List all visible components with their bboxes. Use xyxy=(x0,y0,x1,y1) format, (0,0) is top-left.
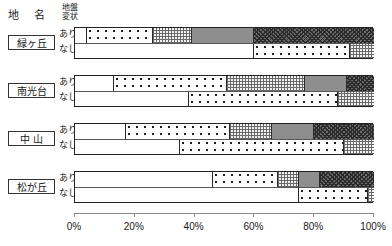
x-axis-line xyxy=(74,213,373,214)
x-axis-tick xyxy=(194,213,195,217)
stacked-bar xyxy=(75,76,374,91)
place-name-box: 南光台 xyxy=(8,83,55,98)
place-name-box: 中 山 xyxy=(8,131,55,146)
bar-segment-gray xyxy=(192,28,255,43)
stacked-bar xyxy=(75,91,374,106)
place-name-box: 緑ヶ丘 xyxy=(8,35,55,50)
stacked-bar xyxy=(75,172,374,187)
stacked-bar-chart: 地 名 地盤 変状 緑ヶ丘ありなし南光台ありなし中 山ありなし松が丘ありなし 0… xyxy=(0,0,392,246)
x-axis-tick-label: 20% xyxy=(124,221,144,232)
place-name-box: 松が丘 xyxy=(8,179,55,194)
bar-segment-gray xyxy=(299,172,320,187)
x-axis-tick-label: 0% xyxy=(67,221,81,232)
bar-segment-white xyxy=(75,28,87,43)
bar-segment-white xyxy=(75,172,213,187)
x-axis-tick-label: 60% xyxy=(243,221,263,232)
x-axis-tick-label: 40% xyxy=(184,221,204,232)
bar-segment-gray xyxy=(272,124,314,139)
bar-segment-dark xyxy=(314,124,374,139)
bar-segment-dots xyxy=(299,188,368,202)
bar-segment-hatch xyxy=(153,28,192,43)
x-axis-tick xyxy=(74,213,75,217)
bar-segment-dark xyxy=(320,172,374,187)
bar-segment-hatch xyxy=(278,172,299,187)
bar-group-frame xyxy=(74,171,373,203)
bar-segment-white xyxy=(75,124,126,139)
column-header-ground-deformation: 地盤 変状 xyxy=(62,3,78,21)
x-axis-tick xyxy=(134,213,135,217)
stacked-bar xyxy=(75,124,374,139)
stacked-bar xyxy=(75,139,374,154)
bar-segment-hatch xyxy=(344,140,374,154)
stacked-bar xyxy=(75,43,374,58)
stacked-bar xyxy=(75,187,374,202)
x-axis-tick xyxy=(253,213,254,217)
bar-group-frame xyxy=(74,75,373,107)
bar-segment-hatch xyxy=(338,92,374,106)
x-axis-tick-label: 80% xyxy=(303,221,323,232)
bar-segment-dots xyxy=(189,92,339,106)
bar-segment-dots xyxy=(126,124,231,139)
bar-segment-dots xyxy=(254,44,350,58)
bar-group-frame xyxy=(74,123,373,155)
stacked-bar xyxy=(75,28,374,43)
bar-segment-white xyxy=(75,92,189,106)
bar-segment-dots xyxy=(87,28,153,43)
bar-segment-dark xyxy=(347,76,374,91)
bar-segment-hatch xyxy=(230,124,272,139)
bar-segment-hatch xyxy=(350,44,374,58)
bar-segment-white xyxy=(75,76,114,91)
bar-segment-dots xyxy=(213,172,279,187)
bar-segment-hatch xyxy=(368,188,374,202)
bar-segment-gray xyxy=(305,76,347,91)
x-axis-tick-label: 100% xyxy=(360,221,386,232)
column-header-place-name: 地 名 xyxy=(8,6,51,22)
bar-segment-white xyxy=(75,140,180,154)
bar-segment-white xyxy=(75,188,299,202)
bar-segment-dots xyxy=(180,140,344,154)
bar-segment-white xyxy=(75,44,254,58)
x-axis-tick xyxy=(313,213,314,217)
bar-segment-dark xyxy=(254,28,374,43)
column-header-ground-deformation-line1: 地盤 xyxy=(62,3,78,12)
bar-segment-dots xyxy=(114,76,228,91)
x-axis-tick xyxy=(373,213,374,217)
column-header-ground-deformation-line2: 変状 xyxy=(62,12,78,21)
bar-group-frame xyxy=(74,27,373,59)
bar-segment-hatch xyxy=(227,76,305,91)
